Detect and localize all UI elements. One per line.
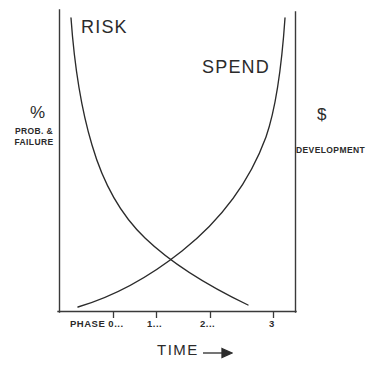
x-tick-label-phase-0: PHASE 0... [70,319,124,329]
chart-canvas [0,0,374,367]
x-axis-title: TIME [157,342,199,357]
right-axis-dollar-symbol: $ [317,106,326,123]
left-axis-percent-symbol: % [30,104,45,121]
left-axis-caption-line-2: FAILURE [8,138,60,147]
chart-figure: RISK SPEND % PROB. & FAILURE $ DEVELOPME… [0,0,374,367]
series-label-risk: RISK [81,18,128,36]
left-axis-caption: PROB. & FAILURE [8,127,60,146]
left-axis-caption-line-1: PROB. & [8,127,60,136]
right-axis-caption: DEVELOPMENT [296,146,365,155]
x-tick-label-phase-2: 2... [200,319,215,329]
time-arrow-icon [203,347,233,359]
x-tick-label-phase-3: 3 [269,319,275,329]
x-tick-label-phase-1: 1... [147,319,162,329]
series-label-spend: SPEND [202,58,270,76]
